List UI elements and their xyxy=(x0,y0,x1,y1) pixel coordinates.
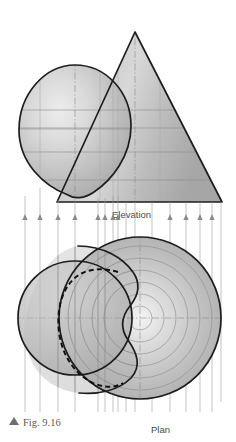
caption-text: Fig. 9.16 xyxy=(23,417,61,428)
technical-drawing-canvas: Elevation xyxy=(0,0,236,442)
figure-container: Elevation xyxy=(0,0,236,442)
plan-label: Plan xyxy=(151,424,170,435)
